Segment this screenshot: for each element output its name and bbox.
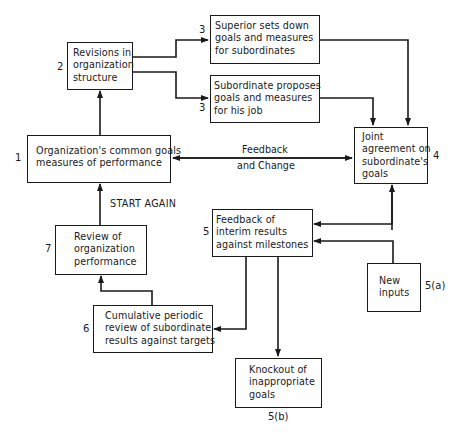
node-text: for his job bbox=[214, 105, 316, 117]
node-text: goals bbox=[362, 168, 420, 180]
edge-label-and-change: and Change bbox=[237, 160, 295, 172]
node-text: for subordinates bbox=[215, 45, 315, 57]
node-text: performance bbox=[74, 256, 128, 268]
node-text: goals and measures bbox=[214, 92, 316, 104]
edge-label-start-again: START AGAIN bbox=[110, 198, 176, 210]
node-text: agreement on bbox=[362, 143, 420, 155]
node-text: Revisions in bbox=[73, 47, 127, 59]
node-text: Organization's common goals bbox=[36, 145, 162, 157]
node-text: organization bbox=[73, 59, 127, 71]
node-text: subordinate's bbox=[362, 156, 420, 168]
node-text: Subordinate proposes bbox=[214, 80, 316, 92]
node-text: organization bbox=[74, 243, 128, 255]
node-text: measures of performance bbox=[36, 157, 162, 169]
node-review-org-performance: Review of organization performance bbox=[55, 225, 147, 275]
node-text: Review of bbox=[74, 231, 128, 243]
node-text: inputs bbox=[379, 287, 409, 299]
node-number-5a: 5(a) bbox=[425, 280, 445, 292]
node-text: goals and measures bbox=[215, 32, 315, 44]
node-text: results against targets bbox=[105, 335, 201, 347]
node-number-4: 4 bbox=[433, 150, 439, 162]
node-text: interim results bbox=[216, 226, 309, 238]
node-text: Superior sets down bbox=[215, 20, 315, 32]
node-knockout-goals: Knockout of inappropriate goals bbox=[235, 358, 322, 408]
node-text: Knockout of bbox=[249, 364, 308, 376]
node-number-5b: 5(b) bbox=[268, 411, 289, 423]
node-feedback-interim-results: Feedback of interim results against mile… bbox=[212, 209, 313, 257]
node-number-1: 1 bbox=[15, 152, 21, 164]
node-subordinate-proposes-goals: Subordinate proposes goals and measures … bbox=[210, 75, 320, 123]
node-number-6: 6 bbox=[83, 323, 89, 335]
node-number-2: 2 bbox=[57, 61, 63, 73]
node-text: inappropriate bbox=[249, 376, 308, 388]
node-number-7: 7 bbox=[45, 243, 51, 255]
node-text: against milestones bbox=[216, 239, 309, 251]
node-joint-agreement: Joint agreement on subordinate's goals bbox=[354, 127, 428, 184]
node-text: review of subordinate bbox=[105, 322, 201, 334]
node-text: structure bbox=[73, 72, 127, 84]
node-cumulative-review: Cumulative periodic review of subordinat… bbox=[93, 305, 213, 353]
node-org-common-goals: Organization's common goals measures of … bbox=[27, 135, 171, 183]
node-revisions-org-structure: Revisions in organization structure bbox=[67, 42, 133, 90]
node-superior-sets-goals: Superior sets down goals and measures fo… bbox=[210, 15, 320, 64]
node-text: Feedback of bbox=[216, 214, 309, 226]
node-new-inputs: New inputs bbox=[367, 263, 421, 312]
edge-label-feedback: Feedback bbox=[242, 144, 288, 156]
node-text: New bbox=[379, 275, 409, 287]
node-text: Joint bbox=[362, 131, 420, 143]
node-text: goals bbox=[249, 389, 308, 401]
node-text: Cumulative periodic bbox=[105, 310, 201, 322]
node-number-3a: 3 bbox=[199, 24, 205, 36]
node-number-3b: 3 bbox=[199, 102, 205, 114]
node-number-5: 5 bbox=[203, 226, 209, 238]
